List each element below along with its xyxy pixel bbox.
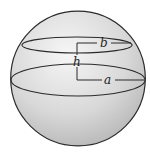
sphere-outline bbox=[11, 11, 146, 146]
label-h: h bbox=[73, 55, 81, 69]
sphere-diagram: b h a bbox=[0, 0, 150, 155]
label-b: b bbox=[100, 36, 108, 50]
label-a: a bbox=[104, 73, 111, 87]
